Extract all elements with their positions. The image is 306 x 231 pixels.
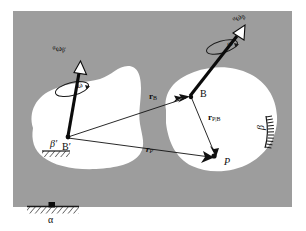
label-point-p: P	[224, 157, 230, 167]
label-frame-alpha: α	[48, 215, 53, 225]
label-point-b: B	[200, 89, 207, 99]
label-omega-left: αωβ′	[52, 43, 67, 55]
ground-symbol	[27, 202, 79, 214]
figure-canvas: αωβ′ ω αωβ ω B′ B P rB rP rP|B β′ β α	[0, 0, 306, 231]
label-point-b-prime: B′	[62, 142, 71, 152]
omega-vector-left-arrowhead	[74, 61, 87, 75]
label-vector-rb: rB	[149, 92, 157, 102]
omega-curl-right-arrowhead	[234, 43, 239, 47]
body-beta-shape	[166, 67, 278, 171]
label-vector-rp-b: rP|B	[208, 113, 220, 123]
label-vector-rp: rP	[146, 145, 153, 155]
label-body-beta: β	[256, 125, 266, 130]
label-body-beta-prime: β′	[50, 139, 57, 149]
point-p-marker	[211, 153, 216, 158]
diagram-graphics	[0, 0, 306, 231]
